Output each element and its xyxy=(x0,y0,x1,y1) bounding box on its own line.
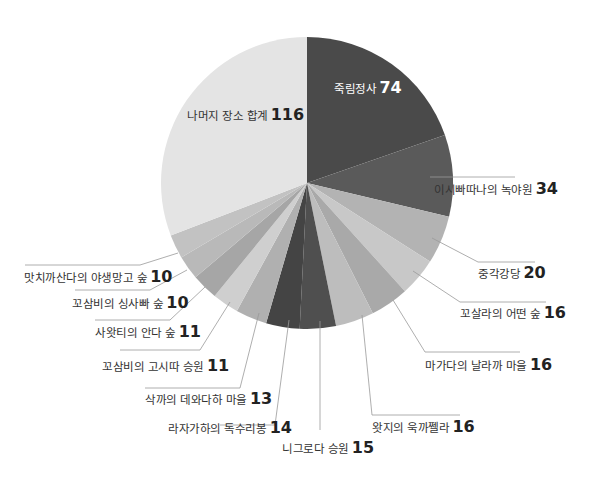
label-value: 116 xyxy=(271,105,304,124)
slice-label-simsapa: 꼬삼비의 싱사빠 숲10 xyxy=(72,293,189,312)
label-value: 10 xyxy=(166,293,188,312)
label-name: 맛치까산다의 야생망고 숲 xyxy=(24,271,147,285)
label-name: 중각강당 xyxy=(478,267,520,281)
slice-label-nigrodha: 니그로다 승원15 xyxy=(282,438,374,457)
slice-label-sakka: 삭까의 데와다하 마을13 xyxy=(145,389,272,408)
slice-label-magadha: 마가다의 날라까 마을16 xyxy=(425,355,552,374)
slice-label-kosala: 꼬살라의 어떤 숲16 xyxy=(460,303,566,322)
label-value: 11 xyxy=(179,322,201,341)
slice-label-jukrim: 죽림정사74 xyxy=(334,78,402,97)
label-value: 16 xyxy=(452,417,474,436)
slice-label-remaining: 나머지 장소 합계116 xyxy=(187,105,304,124)
leader-line xyxy=(25,253,178,265)
slice-label-ghosita: 꼬삼비의 고시따 승원11 xyxy=(102,356,229,375)
label-name: 꼬삼비의 고시따 승원 xyxy=(102,360,204,374)
leader-line xyxy=(432,238,535,262)
label-name: 꼬살라의 어떤 숲 xyxy=(460,307,541,321)
pie-slices xyxy=(161,37,453,329)
label-value: 14 xyxy=(270,418,292,437)
label-value: 74 xyxy=(379,78,401,97)
label-value: 16 xyxy=(544,303,566,322)
slice-label-macchikasanda: 맛치까산다의 야생망고 숲10 xyxy=(24,267,172,286)
label-name: 마가다의 날라까 마을 xyxy=(425,359,527,373)
label-value: 16 xyxy=(530,355,552,374)
slice-label-rajagaha: 라자가하의 독수리봉14 xyxy=(168,418,292,437)
slice-label-isipatana: 이시빠따나의 녹야원34 xyxy=(434,179,558,198)
slice-label-junggak: 중각강당20 xyxy=(478,263,546,282)
label-name: 사왓티의 안다 숲 xyxy=(95,326,176,340)
label-value: 20 xyxy=(523,263,545,282)
pie-chart xyxy=(0,0,606,482)
label-name: 라자가하의 독수리봉 xyxy=(168,422,267,436)
label-value: 34 xyxy=(536,179,558,198)
label-value: 11 xyxy=(207,356,229,375)
leader-line xyxy=(220,320,289,425)
label-name: 이시빠따나의 녹야원 xyxy=(434,183,533,197)
label-name: 니그로다 승원 xyxy=(282,442,349,456)
label-name: 꼬삼비의 싱사빠 숲 xyxy=(72,297,163,311)
label-value: 13 xyxy=(250,389,272,408)
label-name: 왓지의 욱까쩰라 xyxy=(372,421,449,435)
label-name: 삭까의 데와다하 마을 xyxy=(145,393,247,407)
label-value: 10 xyxy=(150,267,172,286)
label-name: 죽림정사 xyxy=(334,82,376,96)
slice-label-vajji: 왓지의 욱까쩰라16 xyxy=(372,417,475,436)
label-name: 나머지 장소 합계 xyxy=(187,109,268,123)
slice-label-andhavana: 사왓티의 안다 숲11 xyxy=(95,322,201,341)
label-value: 15 xyxy=(352,438,374,457)
